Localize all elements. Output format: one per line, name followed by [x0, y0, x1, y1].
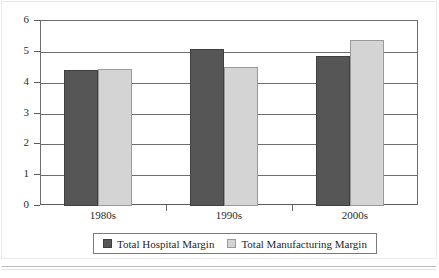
y-axis-tick-label: 3: [0, 107, 29, 118]
footer-rule: [2, 266, 436, 267]
legend-entry-label: Total Hospital Margin: [117, 238, 214, 250]
chart-legend: Total Hospital MarginTotal Manufacturing…: [93, 233, 377, 254]
footer-rule-secondary: [2, 269, 436, 270]
plot-area: [40, 20, 418, 205]
bar-1990s-series-2: [224, 67, 258, 206]
bar-1980s-series-1: [64, 70, 98, 206]
y-axis-tick-label: 6: [0, 14, 29, 25]
bar-1980s-series-2: [98, 69, 132, 206]
y-axis-tick-mark: [34, 205, 40, 206]
x-axis-label-2000s: 2000s: [292, 209, 418, 222]
legend-entry-label: Total Manufacturing Margin: [241, 238, 367, 250]
y-axis-tick-label: 2: [0, 137, 29, 148]
x-axis-label-1980s: 1980s: [40, 209, 166, 222]
y-axis-tick-label: 1: [0, 168, 29, 179]
y-axis-tick-label: 0: [0, 199, 29, 210]
y-axis-tick-label: 5: [0, 45, 29, 56]
legend-entry-2[interactable]: Total Manufacturing Margin: [227, 238, 367, 250]
bar-1990s-series-1: [190, 49, 224, 206]
bar-2000s-series-2: [350, 40, 384, 207]
bar-2000s-series-1: [316, 56, 350, 206]
y-axis-tick-label: 4: [0, 76, 29, 87]
dark-swatch-icon: [103, 239, 112, 248]
x-axis-label-1990s: 1990s: [166, 209, 292, 222]
light-swatch-icon: [227, 239, 236, 248]
legend-entry-1[interactable]: Total Hospital Margin: [103, 238, 214, 250]
bar-chart-figure: 6543210 1980s1990s2000s Total Hospital M…: [0, 0, 439, 278]
